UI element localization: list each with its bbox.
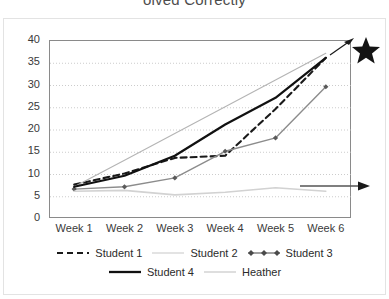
legend-item-student-4[interactable]: Student 4 [108,266,194,278]
arrow-right-icon [300,180,380,200]
y-axis-tick-label: 25 [10,101,40,112]
series-marker [122,184,127,189]
legend-item-student-3[interactable]: Student 3 [247,247,333,259]
legend-swatch [108,266,142,278]
legend-swatch [203,266,237,278]
chart-title: olved Correctly [0,0,389,8]
legend-swatch [247,247,281,259]
legend-item-heather[interactable]: Heather [203,266,281,278]
legend-item-label: Heather [242,266,281,278]
y-axis-tick-label: 30 [10,79,40,90]
series-line [74,58,326,185]
legend-item-label: Student 2 [190,247,237,259]
legend-item-label: Student 1 [95,247,142,259]
legend-item-label: Student 4 [147,266,194,278]
series-line [74,87,326,189]
series-marker [172,175,177,180]
legend-row-1: Student 1Student 2Student 3 [0,243,389,262]
y-axis-tick-label: 0 [10,212,40,223]
series-line [74,188,326,195]
series-marker [223,149,228,154]
y-axis-tick-label: 15 [10,145,40,156]
legend-swatch [151,247,185,259]
legend-item-label: Student 3 [286,247,333,259]
x-axis-tick-label: Week 6 [296,222,356,234]
series-line [74,53,326,187]
star-icon [351,36,381,66]
y-axis-tick-label: 20 [10,123,40,134]
chart-legend: Student 1Student 2Student 3 Student 4Hea… [0,243,389,281]
legend-item-student-2[interactable]: Student 2 [151,247,237,259]
y-axis-tick-label: 10 [10,168,40,179]
legend-item-student-1[interactable]: Student 1 [56,247,142,259]
legend-row-2: Student 4Heather [0,262,389,281]
y-axis-tick-label: 35 [10,56,40,67]
chart-screenshot: olved Correctly 4035302520151050 Week 1W… [0,0,389,299]
y-axis-tick-label: 5 [10,190,40,201]
y-axis-tick-label: 40 [10,34,40,45]
legend-swatch [56,247,90,259]
